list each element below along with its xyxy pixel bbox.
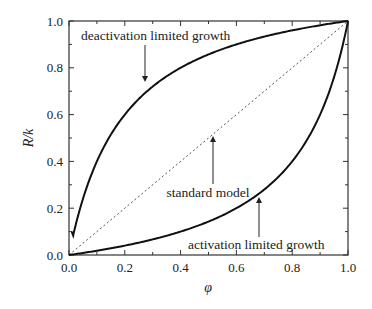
annotation-deactivation: deactivation limited growth <box>81 28 230 43</box>
y-tick-label: 1.0 <box>47 14 63 29</box>
y-tick-label: 0.6 <box>47 107 64 122</box>
y-tick-label: 0.0 <box>47 248 63 263</box>
series-deactivation <box>72 21 348 235</box>
x-tick-label: 0.0 <box>61 260 77 275</box>
series-standard-model <box>69 21 348 255</box>
y-tick-label: 0.4 <box>47 154 64 169</box>
y-tick-label: 0.8 <box>47 60 63 75</box>
x-tick-label: 0.6 <box>228 260 245 275</box>
annotation-standard-model: standard model <box>167 185 250 200</box>
x-tick-label: 0.2 <box>117 260 133 275</box>
y-axis-label: R/k <box>21 128 36 148</box>
x-tick-label: 1.0 <box>340 260 356 275</box>
annotation-activation: activation limited growth <box>188 237 325 252</box>
chart: 0.00.20.40.60.81.00.00.20.40.60.81.0 dea… <box>0 0 372 309</box>
x-axis-label: φ <box>204 280 212 295</box>
x-tick-label: 0.8 <box>284 260 300 275</box>
y-tick-label: 0.2 <box>47 201 63 216</box>
x-tick-label: 0.4 <box>172 260 189 275</box>
data-series <box>69 21 348 255</box>
annotations: deactivation limited growthstandard mode… <box>81 28 325 252</box>
